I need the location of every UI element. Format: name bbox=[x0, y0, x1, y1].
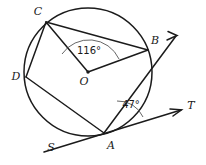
geometry-canvas: A B C D O S T 116° 47° bbox=[0, 0, 206, 165]
ray-AB-extended bbox=[104, 36, 176, 133]
chord-CD bbox=[26, 22, 46, 77]
ray-AB-arrowhead bbox=[167, 32, 177, 41]
point-label-O: O bbox=[79, 75, 88, 88]
angle-label-tangent-chord: 47° bbox=[122, 99, 140, 110]
point-label-C: C bbox=[34, 5, 43, 18]
chord-DA bbox=[26, 77, 104, 133]
point-label-D: D bbox=[11, 70, 21, 83]
geometry-figure: A B C D O S T 116° 47° bbox=[0, 0, 206, 165]
point-label-S: S bbox=[47, 141, 55, 154]
center-point-O bbox=[86, 70, 89, 73]
point-label-A: A bbox=[106, 139, 115, 152]
point-label-B: B bbox=[150, 34, 159, 47]
point-label-T: T bbox=[187, 99, 196, 112]
angle-label-central: 116° bbox=[77, 45, 101, 56]
